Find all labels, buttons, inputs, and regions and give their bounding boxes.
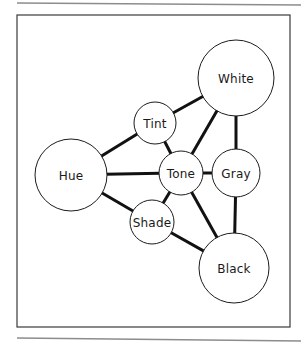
color-relationship-diagram: WhiteTintHueToneGrayShadeBlack	[0, 0, 306, 344]
top-rule	[17, 3, 301, 5]
edge-hue-shade	[101, 192, 134, 211]
node-black[interactable]: Black	[199, 233, 269, 303]
node-label-black: Black	[217, 262, 250, 276]
edge-tone-shade	[162, 191, 170, 205]
edge-shade-black	[170, 232, 205, 252]
node-group: WhiteTintHueToneGrayShadeBlack	[35, 40, 274, 303]
figure-stage: WhiteTintHueToneGrayShadeBlack	[0, 0, 306, 344]
bottom-rule	[17, 338, 301, 341]
edge-tint-tone	[164, 140, 172, 155]
edge-hue-tone	[105, 173, 160, 174]
edge-white-tone	[191, 110, 217, 156]
edge-tint-white	[172, 96, 204, 114]
edge-tint-hue	[100, 133, 138, 157]
edge-gray-black	[235, 196, 236, 235]
node-tone[interactable]: Tone	[159, 151, 203, 195]
node-label-shade: Shade	[133, 216, 172, 230]
node-label-tone: Tone	[166, 167, 195, 181]
node-white[interactable]: White	[198, 40, 274, 116]
node-shade[interactable]: Shade	[130, 200, 174, 244]
node-hue[interactable]: Hue	[35, 139, 107, 211]
node-label-hue: Hue	[59, 169, 84, 183]
node-tint[interactable]: Tint	[134, 102, 176, 144]
node-gray[interactable]: Gray	[212, 149, 260, 197]
node-label-gray: Gray	[221, 167, 251, 181]
node-label-white: White	[218, 72, 254, 86]
edge-tone-black	[191, 191, 218, 239]
node-label-tint: Tint	[142, 117, 167, 131]
